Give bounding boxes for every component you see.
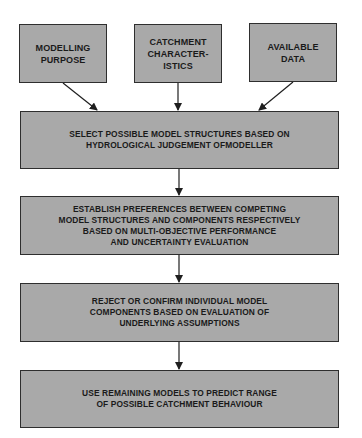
arrow-purpose-to-select — [63, 83, 97, 110]
arrow-data-to-select — [259, 82, 293, 110]
box-text-line: MODELLING — [36, 42, 91, 54]
input-box-catchment-characteristics: CATCHMENT CHARACTER- ISTICS — [134, 24, 222, 83]
box-text-line: MODEL STRUCTURES AND COMPONENTS RESPECTI… — [59, 215, 301, 226]
box-text-line: UNDERLYING ASSUMPTIONS — [90, 318, 269, 329]
step-box-select-structures: SELECT POSSIBLE MODEL STRUCTURES BASED O… — [20, 111, 339, 169]
box-text-line: CATCHMENT — [148, 36, 209, 48]
box-text-line: COMPONENTS BASED ON EVALUATION OF — [90, 307, 269, 318]
box-text-line: ISTICS — [148, 60, 209, 72]
step-box-establish-preferences: ESTABLISH PREFERENCES BETWEEN COMPETING … — [20, 196, 339, 255]
box-text-line: PURPOSE — [36, 54, 91, 66]
box-text-line: BASED ON MULTI-OBJECTIVE PERFORMANCE — [59, 226, 301, 237]
box-text-line: AVAILABLE — [267, 41, 318, 53]
input-box-modelling-purpose: MODELLING PURPOSE — [19, 24, 107, 83]
box-text-line: DATA — [267, 53, 318, 65]
step-box-predict-range: USE REMAINING MODELS TO PREDICT RANGE OF… — [20, 370, 339, 428]
box-text-line: USE REMAINING MODELS TO PREDICT RANGE — [82, 388, 277, 399]
box-text-line: OF POSSIBLE CATCHMENT BEHAVIOUR — [82, 399, 277, 410]
box-text-line: REJECT OR CONFIRM INDIVIDUAL MODEL — [90, 296, 269, 307]
box-text-line: ESTABLISH PREFERENCES BETWEEN COMPETING — [59, 204, 301, 215]
step-box-reject-confirm: REJECT OR CONFIRM INDIVIDUAL MODEL COMPO… — [20, 283, 339, 342]
box-text-line: SELECT POSSIBLE MODEL STRUCTURES BASED O… — [69, 129, 289, 140]
input-box-available-data: AVAILABLE DATA — [249, 23, 337, 82]
box-text-line: HYDROLOGICAL JUDGEMENT OFMODELLER — [69, 140, 289, 151]
box-text-line: AND UNCERTAINTY EVALUATION — [59, 237, 301, 248]
box-text-line: CHARACTER- — [148, 48, 209, 60]
